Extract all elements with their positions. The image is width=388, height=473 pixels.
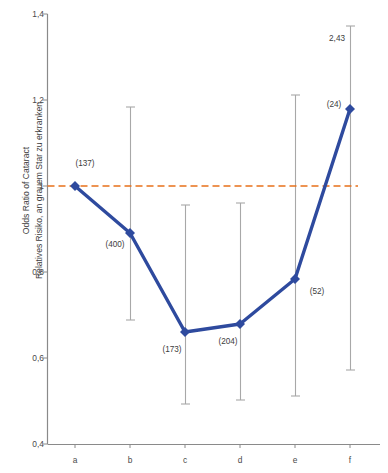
plot-area [0, 0, 388, 473]
data-point-label: (52) [310, 287, 325, 296]
x-tick-label-a: a [65, 455, 85, 465]
series-line-odds-ratio [75, 109, 350, 332]
x-tick-label-b: b [120, 455, 140, 465]
data-point-label: (204) [218, 337, 237, 346]
data-point-label: (24) [327, 100, 342, 109]
data-point-label: (137) [75, 159, 94, 168]
data-point-label: (173) [162, 345, 181, 354]
y-axis-ticks [43, 14, 48, 444]
x-tick-label-e: e [285, 455, 305, 465]
data-point-marker [345, 104, 355, 114]
chart-container: Odds Ratio of Cataract Relatives Risiko,… [0, 0, 388, 473]
annotation-upper-ci-f: 2,43 [329, 34, 345, 43]
data-point-label: (400) [105, 240, 124, 249]
error-bars [126, 26, 355, 404]
x-tick-label-c: c [175, 455, 195, 465]
x-tick-label-d: d [230, 455, 250, 465]
x-tick-label-f: f [340, 455, 360, 465]
